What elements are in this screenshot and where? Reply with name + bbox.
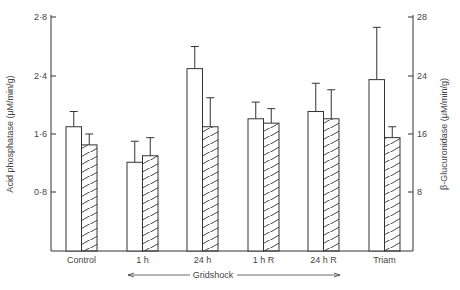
bar-group	[248, 102, 279, 251]
category-label: Control	[67, 255, 96, 265]
gridshock-annotation: Gridshock	[128, 270, 340, 280]
bar-acid-phosphatase	[308, 112, 324, 251]
bar-acid-phosphatase	[369, 80, 385, 251]
y-tick-right: 28	[417, 12, 427, 22]
bar-group	[66, 112, 97, 251]
bar-group	[308, 83, 339, 251]
bar-chart: 0·81·62·42·88162428Acid phosphatase (μM/…	[0, 0, 460, 290]
y-tick-right: 8	[417, 187, 422, 197]
y-tick-left: 1·6	[34, 129, 47, 139]
bar-group	[369, 27, 400, 251]
y-tick-left: 0·8	[34, 187, 47, 197]
category-label: 1 h	[136, 255, 149, 265]
bar-glucuronidase	[264, 123, 280, 251]
gridshock-label: Gridshock	[193, 270, 234, 280]
bar-glucuronidase	[82, 145, 98, 251]
category-labels: Control1 h24 h1 h R24 h RTriam	[67, 255, 396, 265]
y-tick-right: 16	[417, 129, 427, 139]
y-tick-right: 24	[417, 71, 427, 81]
bars	[66, 27, 400, 251]
category-label: 24 h	[194, 255, 212, 265]
bar-acid-phosphatase	[248, 119, 264, 251]
y-tick-left: 2·4	[34, 71, 47, 81]
bar-glucuronidase	[324, 119, 340, 251]
y-tick-left: 2·8	[34, 12, 47, 22]
bar-glucuronidase	[143, 156, 159, 251]
bar-group	[187, 47, 218, 252]
bar-glucuronidase	[385, 138, 401, 251]
y-axis-right-title: β-Glucuronidase (μM/min/g)	[439, 78, 449, 190]
bar-acid-phosphatase	[127, 162, 143, 251]
bar-acid-phosphatase	[66, 127, 82, 251]
bar-glucuronidase	[203, 127, 219, 251]
y-axis-left-title: Acid phosphatase (μM/min/g)	[5, 75, 15, 192]
category-label: 24 h R	[310, 255, 337, 265]
bar-group	[127, 138, 158, 251]
category-label: Triam	[373, 255, 396, 265]
bar-acid-phosphatase	[187, 69, 203, 251]
category-label: 1 h R	[253, 255, 275, 265]
